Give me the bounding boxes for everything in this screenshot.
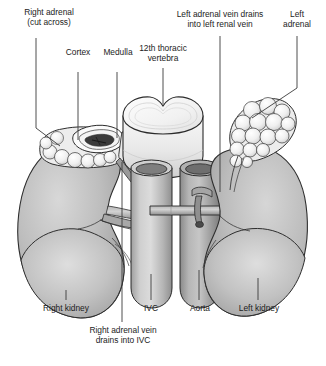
left-kidney-structure: [203, 146, 307, 317]
label-aorta: Aorta: [180, 304, 220, 314]
adrenal-cut-face: [73, 125, 124, 153]
label-right-adrenal-vein: Right adrenal vein drains into IVC: [62, 326, 184, 345]
label-left-kidney: Left kidney: [220, 304, 298, 314]
label-right-kidney: Right kidney: [26, 304, 106, 314]
ivc-structure: [131, 160, 172, 308]
label-vertebra: 12th thoracic vertebra: [126, 44, 200, 63]
label-left-adrenal-vein: Left adrenal vein drains into left renal…: [161, 10, 279, 29]
label-ivc: IVC: [134, 304, 168, 314]
label-left-adrenal: Left adrenal: [274, 10, 320, 29]
label-right-adrenal: Right adrenal (cut across): [6, 8, 92, 27]
